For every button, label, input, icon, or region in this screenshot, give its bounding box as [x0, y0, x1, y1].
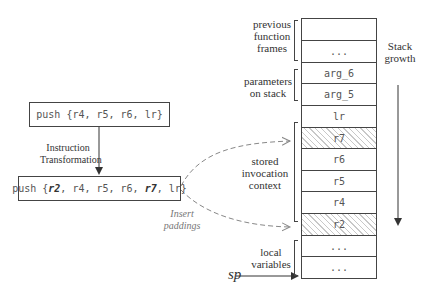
transform-label: Instruction Transformation: [40, 142, 96, 166]
stack-cell: [301, 18, 377, 41]
stack-cell-r4: r4: [301, 191, 377, 214]
stack-cell-r6: r6: [301, 148, 377, 171]
sp-label: sp: [228, 266, 240, 282]
original-instruction-text: push {r4, r5, r6, lr}: [36, 109, 162, 120]
bracket-parameters: [294, 69, 298, 101]
insert-paddings-label: Insert paddings: [160, 208, 204, 232]
original-instruction-box: push {r4, r5, r6, lr}: [29, 102, 170, 127]
transformed-instruction-box: push {r2, r4, r5, r6, r7, lr}: [18, 176, 181, 201]
stack-cell: ...: [301, 40, 377, 63]
stack-cell-r5: r5: [301, 170, 377, 192]
label-locals: local variables: [247, 246, 295, 270]
label-parameters: parameters on stack: [242, 75, 294, 99]
label-context: stored invocation context: [235, 155, 295, 191]
diagram-canvas: push {r4, r5, r6, lr} Instruction Transf…: [0, 0, 430, 298]
padding-register-r2: r2: [48, 183, 60, 194]
label-previous-frames: previous function frames: [247, 18, 297, 54]
padding-register-r7: r7: [145, 183, 157, 194]
stack-cell: ...: [301, 256, 377, 279]
stack-cell-lr: lr: [301, 105, 377, 128]
stack-cell: ...: [301, 235, 377, 257]
stack-cell-r2-padding: r2: [301, 213, 377, 236]
stack-growth-label: Stack growth: [382, 40, 418, 64]
stack-cell-arg6: arg_6: [301, 62, 377, 84]
stack-cell-arg5: arg_5: [301, 83, 377, 106]
stack-cell-r7-padding: r7: [301, 127, 377, 149]
